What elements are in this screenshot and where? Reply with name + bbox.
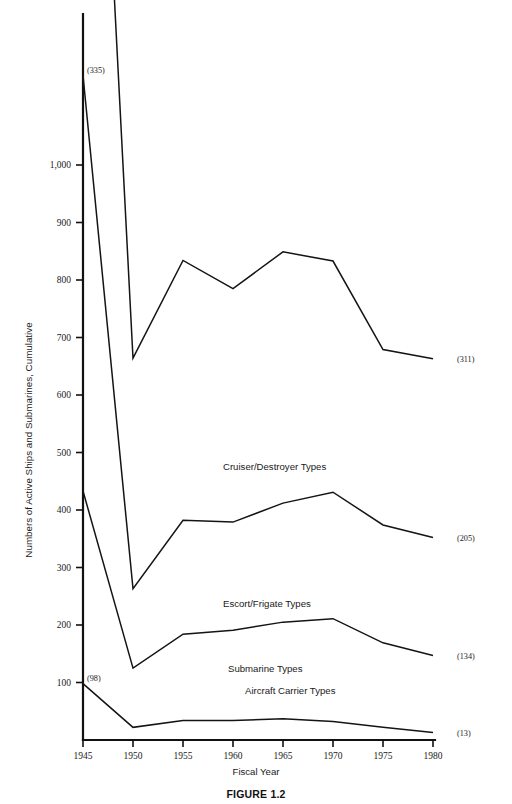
y-tick-label: 800 [57,275,72,285]
escort-frigate-types-end-value-label: (205) [457,534,475,543]
y-tick-label: 700 [57,333,72,343]
x-axis-ticks: 19451950195519601965197019751980 [74,740,443,761]
series-line-cruiser-destroyer-types [83,0,433,359]
figure-caption: FIGURE 1.2 [226,788,285,800]
escort-frigate-types-start-value-label: (335) [87,66,105,75]
series-label-aircraft-carrier-types: Aircraft Carrier Types [245,685,336,696]
y-tick-label: 900 [57,218,72,228]
y-tick-label: 400 [57,505,72,515]
y-axis-ticks: 1002003004005006007008009001,000 [50,160,83,688]
series-label-submarine-types: Submarine Types [228,663,303,674]
cruiser-destroyer-types-end-value-label: (311) [457,355,475,364]
line-chart: 1002003004005006007008009001,000 1945195… [0,0,512,804]
series-line-submarine-types [83,491,433,668]
series-line-escort-frigate-types [83,75,433,588]
series-label-cruiser-destroyer-types: Cruiser/Destroyer Types [223,461,326,472]
y-tick-label: 100 [57,678,72,688]
x-tick-label: 1965 [274,751,293,761]
chart-axes [83,14,435,740]
y-tick-label: 200 [57,620,72,630]
aircraft-carrier-types-end-value-label: (13) [457,729,471,738]
x-tick-label: 1955 [174,751,193,761]
value-annotations-group: (98)(13)(134)(335)(205)(723)(311)(1,189 [87,0,475,738]
x-tick-label: 1960 [224,751,243,761]
y-axis-title: Numbers of Active Ships and Submarines, … [23,322,34,558]
series-label-escort-frigate-types: Escort/Frigate Types [223,598,311,609]
x-axis-title: Fiscal Year [233,766,281,777]
series-lines-group [83,0,433,733]
figure-container: 1002003004005006007008009001,000 1945195… [0,0,512,804]
y-tick-label: 300 [57,563,72,573]
x-tick-label: 1950 [124,751,143,761]
x-tick-label: 1945 [74,751,93,761]
y-tick-label: 500 [57,448,72,458]
aircraft-carrier-types-start-value-label: (98) [87,674,101,683]
x-tick-label: 1980 [424,751,443,761]
y-tick-label: 1,000 [50,160,72,170]
x-tick-label: 1970 [324,751,343,761]
x-tick-label: 1975 [374,751,393,761]
submarine-types-end-value-label: (134) [457,652,475,661]
y-tick-label: 600 [57,390,72,400]
